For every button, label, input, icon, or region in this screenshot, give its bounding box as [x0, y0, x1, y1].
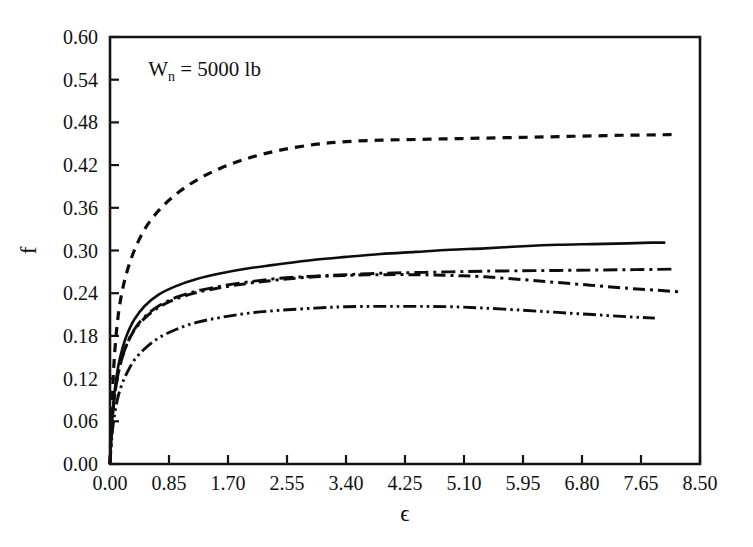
x-axis-title: ϵ: [400, 501, 409, 526]
normal-load-annotation: Wn = 5000 lb: [148, 57, 261, 84]
annotation-layer: Wn = 5000 lb: [148, 57, 261, 84]
x-tick-label: 0.00: [93, 472, 128, 494]
y-tick-label: 0.36: [63, 197, 98, 219]
x-tick-label: 1.70: [211, 472, 246, 494]
y-tick-label: 0.30: [63, 240, 98, 262]
chart-canvas: 0.000.851.702.553.404.255.105.956.807.65…: [0, 0, 753, 547]
y-axis-title: f: [16, 246, 41, 254]
x-tick-label: 4.25: [388, 472, 423, 494]
x-tick-label: 0.85: [152, 472, 187, 494]
y-tick-label: 0.42: [63, 154, 98, 176]
annotation-variable: W: [148, 57, 168, 81]
x-tick-label: 8.50: [683, 472, 718, 494]
x-tick-label: 2.55: [270, 472, 305, 494]
y-tick-label: 0.00: [63, 453, 98, 475]
y-tick-label: 0.12: [63, 368, 98, 390]
x-tick-label: 5.10: [447, 472, 482, 494]
x-tick-label: 6.80: [565, 472, 600, 494]
x-tick-label: 5.95: [506, 472, 541, 494]
x-tick-label: 7.65: [624, 472, 659, 494]
y-tick-label: 0.24: [63, 282, 98, 304]
y-tick-label: 0.60: [63, 26, 98, 48]
annotation-value: = 5000 lb: [175, 57, 261, 81]
x-tick-label: 3.40: [329, 472, 364, 494]
annotation-subscript: n: [168, 69, 175, 84]
y-tick-label: 0.06: [63, 410, 98, 432]
y-tick-label: 0.18: [63, 325, 98, 347]
y-tick-label: 0.48: [63, 111, 98, 133]
y-tick-label: 0.54: [63, 69, 98, 91]
chart-figure: 0.000.851.702.553.404.255.105.956.807.65…: [0, 0, 753, 547]
